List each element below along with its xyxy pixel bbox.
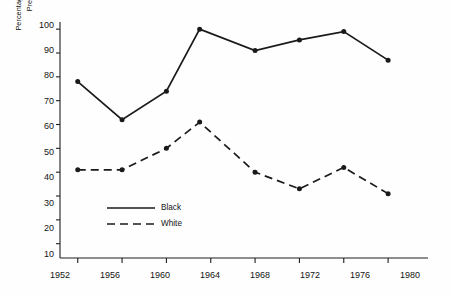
data-point	[253, 170, 258, 175]
series-black	[75, 27, 390, 123]
data-point	[197, 120, 202, 125]
data-point	[197, 27, 202, 32]
data-point	[75, 167, 80, 172]
legend-label-white: White	[161, 219, 182, 228]
legend-label-black: Black	[161, 203, 181, 212]
chart-container: Percentage of Vote for Democratic Presid…	[0, 0, 451, 295]
data-point	[297, 37, 302, 42]
data-point	[341, 29, 346, 34]
y-axis	[56, 22, 60, 258]
data-point	[120, 117, 125, 122]
series-white	[75, 120, 390, 197]
data-point	[386, 58, 391, 63]
legend	[107, 208, 155, 224]
data-point	[164, 89, 169, 94]
plot-area	[0, 0, 451, 295]
data-point	[253, 48, 258, 53]
x-axis	[60, 258, 428, 263]
data-point	[164, 146, 169, 151]
data-point	[341, 165, 346, 170]
data-point	[297, 186, 302, 191]
data-point	[120, 167, 125, 172]
data-series-layer	[75, 27, 390, 196]
data-point	[386, 191, 391, 196]
data-point	[75, 79, 80, 84]
